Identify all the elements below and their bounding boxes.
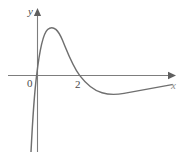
x-tick-label-2: 2	[75, 79, 81, 90]
function-curve	[31, 28, 172, 152]
function-graph-figure: y x 0 2	[0, 0, 180, 152]
x-axis-label: x	[171, 80, 176, 91]
origin-label: 0	[27, 78, 33, 89]
y-axis-label: y	[28, 6, 33, 17]
graph-canvas	[0, 0, 180, 152]
y-axis-arrow-icon	[34, 8, 41, 16]
